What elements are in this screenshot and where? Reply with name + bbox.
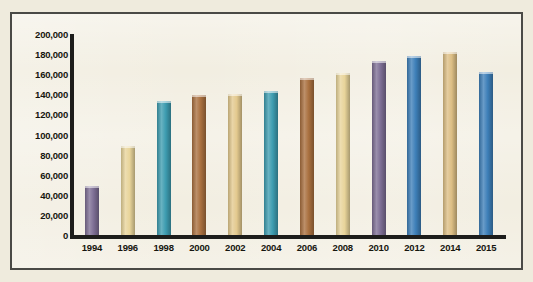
bar-slot bbox=[397, 34, 433, 235]
x-axis-tick-label: 1994 bbox=[74, 242, 110, 253]
x-axis-tick-label: 2014 bbox=[432, 242, 468, 253]
x-axis-labels: 1994199619982000200220042006200820102012… bbox=[74, 242, 504, 258]
x-axis-tick-label: 2012 bbox=[397, 242, 433, 253]
x-axis-tick-label: 1998 bbox=[146, 242, 182, 253]
y-axis-tick-label: 60,000 bbox=[12, 169, 68, 180]
x-axis-line bbox=[70, 235, 506, 239]
x-axis-tick-label: 2006 bbox=[289, 242, 325, 253]
bar[interactable] bbox=[407, 56, 421, 235]
bar-top-highlight bbox=[264, 91, 278, 93]
y-axis-tick-label: 120,000 bbox=[12, 109, 68, 120]
bar-slot bbox=[325, 34, 361, 235]
x-axis-tick-label: 2010 bbox=[361, 242, 397, 253]
y-axis-tick-label: 80,000 bbox=[12, 149, 68, 160]
bar-top-highlight bbox=[443, 52, 457, 54]
bar-chart: 200,000180,000160,000140,000120,000100,0… bbox=[12, 14, 521, 268]
y-axis-tick-label: 180,000 bbox=[12, 49, 68, 60]
bar-slot bbox=[253, 34, 289, 235]
y-axis-tick-label: 20,000 bbox=[12, 209, 68, 220]
bar-slot bbox=[361, 34, 397, 235]
y-axis-tick-label: 0 bbox=[12, 230, 68, 241]
bar[interactable] bbox=[157, 101, 171, 235]
bar[interactable] bbox=[85, 186, 99, 235]
x-axis-tick-label: 2015 bbox=[468, 242, 504, 253]
x-axis-tick-label: 1996 bbox=[110, 242, 146, 253]
y-axis-labels: 200,000180,000160,000140,000120,000100,0… bbox=[12, 14, 68, 272]
bar-top-highlight bbox=[157, 101, 171, 103]
x-axis-tick-label: 2000 bbox=[182, 242, 218, 253]
bar-top-highlight bbox=[85, 186, 99, 188]
bar-slot bbox=[432, 34, 468, 235]
bar-top-highlight bbox=[192, 95, 206, 97]
bar-top-highlight bbox=[336, 73, 350, 75]
bar-slot bbox=[217, 34, 253, 235]
bar-slot bbox=[110, 34, 146, 235]
bar-slot bbox=[468, 34, 504, 235]
x-axis-tick-label: 2004 bbox=[253, 242, 289, 253]
bar[interactable] bbox=[300, 78, 314, 235]
bar[interactable] bbox=[336, 73, 350, 235]
bar-slot bbox=[74, 34, 110, 235]
bar-slot bbox=[146, 34, 182, 235]
bar[interactable] bbox=[443, 52, 457, 235]
bar-top-highlight bbox=[479, 72, 493, 74]
bar-top-highlight bbox=[407, 56, 421, 58]
bar-top-highlight bbox=[372, 61, 386, 63]
y-axis-tick-label: 200,000 bbox=[12, 29, 68, 40]
x-axis-tick-label: 2002 bbox=[217, 242, 253, 253]
bar[interactable] bbox=[264, 91, 278, 235]
bar-top-highlight bbox=[228, 94, 242, 96]
bar[interactable] bbox=[228, 94, 242, 235]
y-axis-tick-label: 100,000 bbox=[12, 129, 68, 140]
bar[interactable] bbox=[192, 95, 206, 235]
bar-top-highlight bbox=[121, 146, 135, 148]
y-axis-tick-label: 160,000 bbox=[12, 69, 68, 80]
x-axis-tick-label: 2008 bbox=[325, 242, 361, 253]
bar-slot bbox=[289, 34, 325, 235]
bar[interactable] bbox=[121, 146, 135, 235]
y-axis-tick-label: 140,000 bbox=[12, 89, 68, 100]
bar-top-highlight bbox=[300, 78, 314, 80]
chart-frame: 200,000180,000160,000140,000120,000100,0… bbox=[10, 12, 523, 270]
bar[interactable] bbox=[372, 61, 386, 235]
bar[interactable] bbox=[479, 72, 493, 235]
y-axis-tick-label: 40,000 bbox=[12, 189, 68, 200]
bars-container bbox=[74, 34, 504, 235]
bar-slot bbox=[182, 34, 218, 235]
